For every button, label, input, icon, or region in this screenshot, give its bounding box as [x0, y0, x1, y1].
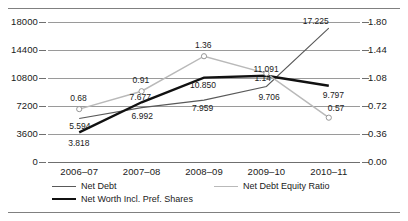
- data-label: 17.225: [303, 17, 329, 26]
- data-label: 0.68: [70, 94, 87, 103]
- data-label: 0.57: [328, 104, 345, 113]
- chart-figure: 036007200108001440018000 0.000.360.721.0…: [0, 0, 408, 221]
- data-label: 6.992: [132, 112, 153, 121]
- series-marker: [326, 115, 331, 120]
- legend-row-1: Net Debt Net Debt Equity Ratio: [52, 181, 382, 194]
- data-label: 7.677: [130, 93, 151, 102]
- x-tick-label: 2006–07: [47, 166, 111, 177]
- data-label: 1.14: [254, 74, 271, 83]
- legend-swatch-net-worth: [52, 198, 76, 200]
- legend-label-net-debt-equity-ratio: Net Debt Equity Ratio: [243, 181, 330, 191]
- y-tick-label-right: 1.80: [368, 17, 387, 27]
- data-label: 5.594: [69, 122, 90, 131]
- data-label: 7.959: [192, 104, 213, 113]
- legend-swatch-net-debt-equity-ratio: [214, 186, 238, 187]
- y-tick-label-right: 0.72: [368, 101, 387, 111]
- series-marker: [77, 107, 82, 112]
- legend-swatch-net-debt: [52, 186, 76, 187]
- legend: Net Debt Net Debt Equity Ratio Net Worth…: [52, 181, 382, 207]
- tick-left: [39, 22, 46, 23]
- legend-row-2: Net Worth Incl. Pref. Shares: [52, 194, 382, 207]
- tick-left: [39, 162, 46, 163]
- x-tick-label: 2009–10: [234, 166, 298, 177]
- data-label: 3.818: [68, 139, 89, 148]
- y-tick-label-right: 1.08: [368, 73, 387, 83]
- tick-left: [39, 106, 46, 107]
- x-axis-line: [48, 162, 360, 163]
- y-tick-label-left: 3600: [16, 129, 38, 139]
- y-tick-label-left: 7200: [16, 101, 38, 111]
- legend-label-net-worth: Net Worth Incl. Pref. Shares: [81, 194, 193, 204]
- tick-left: [39, 134, 46, 135]
- y-tick-label-left: 10800: [11, 73, 38, 83]
- y-tick-label-right: 0.00: [368, 157, 387, 167]
- tick-left: [39, 50, 46, 51]
- x-tick-label: 2007–08: [110, 166, 174, 177]
- y-tick-label-left: 14400: [11, 45, 38, 55]
- legend-item-net-debt[interactable]: Net Debt: [52, 181, 117, 191]
- data-label: 0.91: [133, 76, 150, 85]
- tick-left: [39, 78, 46, 79]
- data-label: 9.706: [258, 93, 279, 102]
- y-tick-label-right: 1.44: [368, 45, 387, 55]
- y-tick-label-left: 18000: [11, 17, 38, 27]
- figure-bottom-rule: [8, 212, 400, 213]
- x-tick-label: 2008–09: [172, 166, 236, 177]
- data-label: 9.797: [323, 91, 344, 100]
- y-tick-label-right: 0.36: [368, 129, 387, 139]
- figure-top-rule: [8, 8, 400, 9]
- legend-item-net-worth[interactable]: Net Worth Incl. Pref. Shares: [52, 194, 193, 204]
- y-tick-label-left: 0: [33, 157, 38, 167]
- data-label: 1.36: [195, 41, 212, 50]
- legend-item-net-debt-equity-ratio[interactable]: Net Debt Equity Ratio: [214, 181, 330, 191]
- legend-label-net-debt: Net Debt: [81, 181, 117, 191]
- data-label: 10.850: [190, 81, 216, 90]
- series-marker: [201, 54, 206, 59]
- x-tick-label: 2010–11: [297, 166, 361, 177]
